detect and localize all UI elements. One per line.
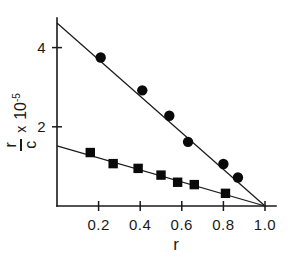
multiplication-symbol: x bbox=[13, 125, 29, 134]
y-axis-scale-factor: 10-5 bbox=[11, 93, 30, 120]
scale-exponent: -5 bbox=[11, 93, 22, 102]
x-tick-label-0.6: 0.6 bbox=[171, 216, 193, 233]
data-point-circle bbox=[233, 172, 243, 182]
scatchard-plot-figure: 24 0.20.40.60.81.0 r r c x 10-5 bbox=[0, 0, 292, 260]
x-tick-label-1.0: 1.0 bbox=[254, 216, 276, 233]
y-tick-labels: 24 bbox=[37, 39, 46, 135]
x-tick-label-0.2: 0.2 bbox=[87, 216, 109, 233]
data-point-circle bbox=[183, 137, 193, 147]
x-tick-label-0.4: 0.4 bbox=[129, 216, 151, 233]
data-point-square bbox=[156, 170, 165, 179]
y-tick-label-4: 4 bbox=[37, 39, 46, 56]
y-axis-title: r c x 10-5 bbox=[4, 70, 38, 174]
y-axis-fraction: r c bbox=[3, 139, 38, 151]
data-point-square bbox=[221, 189, 230, 198]
data-point-circle bbox=[95, 52, 105, 62]
y-axis-numerator: r bbox=[3, 140, 20, 149]
y-tick-label-2: 2 bbox=[37, 118, 46, 135]
plot-canvas: 24 0.20.40.60.81.0 r bbox=[0, 0, 292, 260]
data-point-circle bbox=[218, 159, 228, 169]
data-point-square bbox=[190, 180, 199, 189]
data-markers-group bbox=[86, 52, 244, 198]
x-tick-labels: 0.20.40.60.81.0 bbox=[87, 216, 276, 233]
data-point-square bbox=[108, 159, 117, 168]
data-point-square bbox=[133, 164, 142, 173]
data-point-circle bbox=[137, 85, 147, 95]
data-point-square bbox=[86, 148, 95, 157]
data-point-square bbox=[173, 178, 182, 187]
x-axis-title: r bbox=[173, 235, 179, 254]
scale-base: 10 bbox=[13, 102, 30, 120]
y-axis-denominator: c bbox=[22, 139, 39, 151]
data-point-circle bbox=[164, 111, 174, 121]
x-tick-label-0.8: 0.8 bbox=[212, 216, 234, 233]
